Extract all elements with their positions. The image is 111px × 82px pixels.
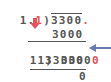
division-overline	[28, 41, 86, 42]
product: 33000	[45, 55, 84, 67]
remainder: 0	[79, 71, 87, 82]
subtraction-line	[30, 69, 86, 70]
division-bracket: )	[43, 14, 51, 27]
divisor: 11	[30, 54, 46, 67]
arrow-left-icon	[89, 44, 111, 52]
dividend-red-point: .	[82, 14, 90, 27]
dividend-red-zero: 0	[92, 54, 100, 67]
dividend: 3300	[51, 13, 82, 27]
arrow-down-icon	[30, 18, 40, 30]
original-division: 1.1)3300.	[4, 3, 90, 27]
quotient: 3000	[52, 29, 83, 41]
